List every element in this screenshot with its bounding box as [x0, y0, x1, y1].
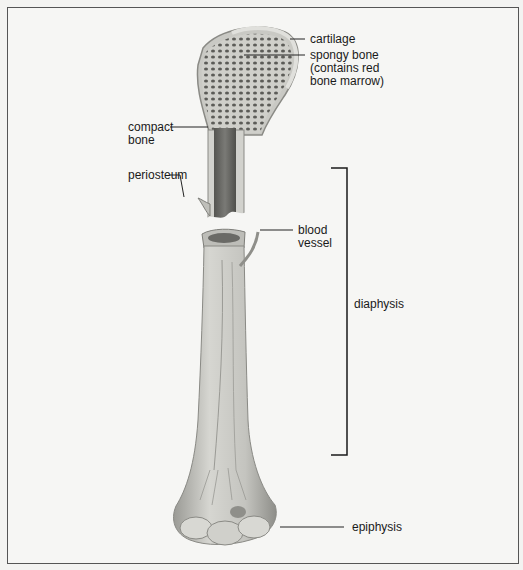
label-diaphysis: diaphysis — [354, 298, 404, 311]
label-epiphysis: epiphysis — [352, 521, 402, 534]
lower-bone — [174, 229, 277, 545]
upper-epiphysis — [197, 27, 298, 135]
label-compact-bone: compact bone — [128, 121, 173, 147]
bone-illustration — [0, 0, 523, 570]
label-cartilage: cartilage — [310, 33, 355, 46]
diaphysis-bracket — [331, 168, 347, 455]
label-blood-vessel: blood vessel — [298, 224, 332, 250]
label-spongy-bone: spongy bone (contains red bone marrow) — [310, 49, 384, 88]
label-periosteum: periosteum — [128, 169, 187, 182]
upper-shaft-section — [198, 128, 246, 224]
